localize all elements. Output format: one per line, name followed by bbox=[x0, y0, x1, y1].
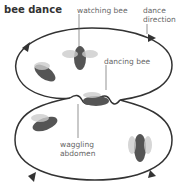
watching-bee-icon bbox=[128, 134, 152, 162]
arrow-icon bbox=[22, 42, 30, 52]
arrow-icon bbox=[28, 172, 36, 182]
watching-bee-icon bbox=[31, 114, 60, 134]
dancing-bee-icon bbox=[83, 92, 109, 106]
watching-bee-icon bbox=[62, 46, 98, 70]
bee-dance-diagram bbox=[0, 0, 184, 189]
watching-bee-icon bbox=[32, 61, 59, 85]
arrow-icon bbox=[148, 170, 156, 178]
